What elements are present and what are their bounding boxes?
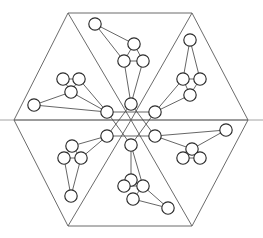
branch-lower-left-atom-3 [65,190,77,202]
branch-lower-right-atom-2-body [177,152,189,164]
branch-upper-right-atom-2-body [194,73,206,85]
branch-bottom-atom-2 [137,180,149,192]
branch-top-atom-1 [128,38,140,50]
branch-top-bond-1 [95,24,124,61]
atom-layer [28,18,232,214]
branch-top-atom-3-body [137,55,149,67]
core-atom-0 [125,98,137,110]
branch-upper-left-atom-0 [28,99,40,111]
branch-lower-left-atom-0-body [66,140,78,152]
branch-bottom-atom-1-body [118,180,130,192]
branch-lower-left-atom-2-body [75,152,87,164]
core-atom-4-body [101,130,113,142]
branch-lower-left-atom-1 [58,152,70,164]
branch-top-atom-1-body [128,38,140,50]
branch-lower-right-bond-4 [155,130,226,136]
branch-bottom-atom-3-body [127,193,139,205]
branch-top-atom-3 [137,55,149,67]
branch-upper-left-atom-0-body [28,99,40,111]
branch-lower-right-atom-3 [194,152,206,164]
structure-canvas [0,0,263,238]
branch-bottom-atom-3 [127,193,139,205]
branch-lower-left-atom-1-body [58,152,70,164]
core-atom-1 [149,106,161,118]
branch-lower-right-atom-0-body [220,124,232,136]
branch-bottom-atom-2-body [137,180,149,192]
branch-upper-left-atom-1 [57,73,69,85]
core-atom-2-body [149,130,161,142]
branch-upper-right-atom-1-body [177,73,189,85]
branch-lower-left-atom-0 [66,140,78,152]
branch-top-atom-0 [89,18,101,30]
branch-upper-right-atom-0-body [184,34,196,46]
branch-top-atom-2-body [118,55,130,67]
branch-lower-right-atom-3-body [194,152,206,164]
branch-bottom-atom-4 [162,202,174,214]
branch-lower-right-atom-2 [177,152,189,164]
core-atom-3 [125,139,137,151]
branch-upper-right-atom-3-body [184,89,196,101]
core-atom-1-body [149,106,161,118]
branch-lower-left-atom-2 [75,152,87,164]
branch-upper-left-atom-1-body [57,73,69,85]
branch-bottom-atom-1 [118,180,130,192]
branch-upper-right-atom-0 [184,34,196,46]
core-atom-3-body [125,139,137,151]
branch-lower-left-atom-3-body [65,190,77,202]
core-atom-2 [149,130,161,142]
core-atom-0-body [125,98,137,110]
branch-lower-right-atom-0 [220,124,232,136]
branch-upper-right-atom-3 [184,89,196,101]
structure-figure [0,0,263,238]
branch-upper-left-atom-3-body [65,86,77,98]
core-atom-5 [101,106,113,118]
branch-upper-left-atom-2 [73,73,85,85]
branch-upper-left-atom-2-body [73,73,85,85]
core-atom-4 [101,130,113,142]
branch-bottom-atom-4-body [162,202,174,214]
branch-top-atom-0-body [89,18,101,30]
branch-top-atom-2 [118,55,130,67]
branch-upper-right-atom-1 [177,73,189,85]
branch-upper-left-atom-3 [65,86,77,98]
branch-upper-right-atom-2 [194,73,206,85]
core-atom-5-body [101,106,113,118]
